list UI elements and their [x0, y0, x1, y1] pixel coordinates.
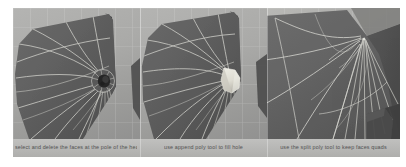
- panel-3-seam: [267, 8, 268, 157]
- panel-3-caption: use the split poly tool to keep faces qu…: [267, 139, 400, 157]
- panel-2-caption-text: use append poly tool to fill hole: [164, 145, 243, 150]
- panel-1-caption-text: select and delete the faces at the pole …: [15, 145, 137, 150]
- viewport-2: [140, 8, 267, 139]
- panel-3-caption-text: use the split poly tool to keep faces qu…: [280, 145, 387, 150]
- panel-2-caption: use append poly tool to fill hole: [140, 139, 267, 157]
- figure-panel-2: use append poly tool to fill hole: [140, 8, 267, 157]
- figure-panel-1: select and delete the faces at the pole …: [13, 8, 140, 157]
- viewport-3: [267, 8, 400, 139]
- mesh-side-sliver-2: [256, 54, 267, 118]
- viewport-1: [13, 8, 140, 139]
- tutorial-figure: select and delete the faces at the pole …: [13, 8, 400, 157]
- mesh-render-3: [267, 8, 400, 139]
- figure-panel-3: use the split poly tool to keep faces qu…: [267, 8, 400, 157]
- panel-1-caption: select and delete the faces at the pole …: [13, 139, 140, 157]
- pole-vertex-3: [363, 38, 366, 41]
- panel-2-seam: [140, 8, 141, 157]
- mesh-render-2: [140, 8, 267, 139]
- mesh-render-1: [13, 8, 140, 139]
- pole-hole-1: [98, 74, 110, 87]
- mesh-side-sliver-1: [131, 58, 140, 120]
